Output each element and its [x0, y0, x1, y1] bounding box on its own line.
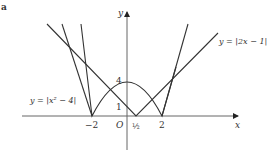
curve-abs-quadratic — [81, 24, 176, 116]
x-axis-label: x — [235, 120, 240, 130]
curve-abs-quadratic-right-branch — [162, 24, 188, 116]
corner-label: a — [1, 2, 7, 12]
y-tick-1: 1 — [116, 102, 122, 112]
x-tick-2: 2 — [159, 120, 165, 130]
y-tick-4: 4 — [116, 76, 122, 86]
y-axis-label: y — [117, 8, 124, 18]
label-abs-linear: y = |2x − 1| — [218, 37, 267, 46]
x-tick-half: ½ — [132, 122, 140, 131]
label-abs-quadratic: y = |x² − 4| — [29, 96, 76, 105]
x-tick-neg2: −2 — [85, 120, 98, 130]
origin-label: O — [116, 120, 124, 130]
graph-figure: a 4 1 −2 O ½ 2 x y y = |2x − 1| y = |x² … — [0, 0, 269, 153]
